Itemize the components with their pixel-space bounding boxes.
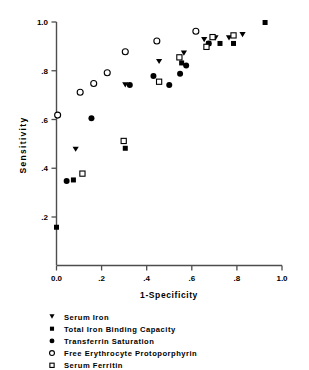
data-point xyxy=(121,138,126,143)
data-point xyxy=(231,41,236,46)
data-point xyxy=(123,146,128,151)
y-tick-label: .2 xyxy=(41,213,48,222)
y-axis-label: Sensitivity xyxy=(18,117,28,174)
data-point xyxy=(263,20,268,25)
data-point xyxy=(150,73,156,79)
data-point xyxy=(80,171,85,176)
data-point xyxy=(64,178,70,184)
x-tick-label: 0.0 xyxy=(51,274,63,283)
roc-scatter-plot: 1.0.8.6.4.2 0.0.2.4.6.81.0 Sensitivity 1… xyxy=(0,0,309,370)
data-point xyxy=(55,112,61,118)
legend-marker xyxy=(50,338,55,343)
data-point xyxy=(54,225,59,230)
legend-label: Serum Ferritin xyxy=(64,361,123,370)
legend-marker xyxy=(50,363,54,367)
data-point xyxy=(210,35,215,40)
data-point xyxy=(71,177,76,182)
data-point xyxy=(157,79,162,84)
data-point xyxy=(104,70,110,76)
y-tick-label: .8 xyxy=(41,67,48,76)
data-point xyxy=(217,41,222,46)
data-point xyxy=(231,33,236,38)
x-tick-label: .4 xyxy=(143,274,150,283)
legend-marker xyxy=(50,327,54,331)
data-point xyxy=(88,115,94,121)
x-tick-label: .8 xyxy=(234,274,241,283)
data-point xyxy=(91,80,97,86)
legend-label: Transferrin Saturation xyxy=(64,337,154,346)
chart-background xyxy=(0,0,309,370)
data-point xyxy=(166,82,172,88)
data-point xyxy=(77,89,83,95)
y-tick-label: .6 xyxy=(41,116,48,125)
data-point xyxy=(154,38,160,44)
data-point xyxy=(127,82,133,88)
legend-label: Free Erythrocyte Protoporphyrin xyxy=(64,349,197,358)
legend-label: Total Iron Binding Capacity xyxy=(64,325,176,334)
data-point xyxy=(204,44,209,49)
data-point xyxy=(193,28,199,34)
x-tick-label: .2 xyxy=(98,274,105,283)
x-tick-label: .6 xyxy=(188,274,195,283)
data-point xyxy=(177,55,182,60)
x-axis-label: 1-Specificity xyxy=(140,290,198,300)
legend-label: Serum Iron xyxy=(64,313,109,322)
data-point xyxy=(183,62,189,68)
data-point xyxy=(177,71,183,77)
x-tick-label: 1.0 xyxy=(276,274,288,283)
data-point xyxy=(122,49,128,55)
y-tick-label: .4 xyxy=(41,164,48,173)
roc-chart-figure: 1.0.8.6.4.2 0.0.2.4.6.81.0 Sensitivity 1… xyxy=(0,0,309,370)
legend-marker xyxy=(50,351,55,356)
y-tick-label: 1.0 xyxy=(37,18,49,27)
